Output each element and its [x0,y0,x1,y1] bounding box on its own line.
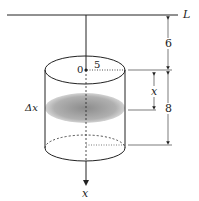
label-depth-x: x [151,86,157,97]
cylinder-tank-diagram: L 0 5 6 x 8 Δx x [0,0,199,201]
cylinder-bottom-back [45,135,125,148]
label-origin: 0 [77,65,83,75]
cylinder-bottom-front [45,148,125,161]
diagram-graphics [0,0,199,201]
label-line-l: L [183,9,190,20]
label-height: 8 [165,103,172,114]
label-axis-x: x [82,188,88,199]
label-top-gap: 6 [165,38,172,49]
label-slice: Δx [25,103,38,113]
label-radius: 5 [94,60,100,70]
slice-disk [45,93,125,123]
